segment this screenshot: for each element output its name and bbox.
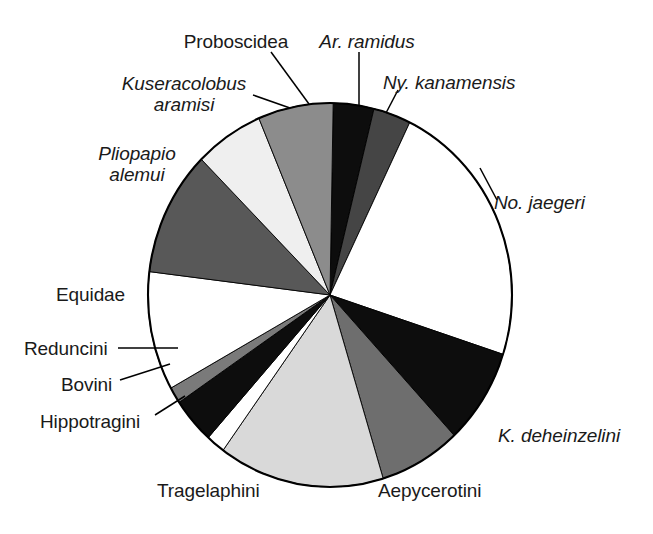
pie-label-no-jaegeri-line1: No. jaegeri — [494, 192, 585, 213]
pie-label-proboscidea: Proboscidea — [169, 31, 303, 52]
pie-label-kuseracolobus: Kuseracolobusaramisi — [104, 73, 264, 116]
pie-label-tragelaphini: Tragelaphini — [157, 480, 270, 501]
pie-label-pliopapio-line2: alemui — [109, 164, 164, 185]
pie-label-ny-kanamensis: Ny. kanamensis — [383, 72, 535, 93]
pie-label-ar-ramidus-line1: Ar. ramidus — [319, 31, 414, 52]
pie-label-no-jaegeri: No. jaegeri — [494, 192, 614, 213]
pie-label-tragelaphini-line1: Tragelaphini — [157, 480, 260, 501]
pie-chart-svg — [0, 0, 653, 534]
pie-label-hippotragini-line1: Hippotragini — [40, 411, 140, 432]
pie-label-k-deheinzelini: K. deheinzelini — [498, 425, 644, 446]
pie-label-proboscidea-line1: Proboscidea — [184, 31, 289, 52]
pie-label-pliopapio: Pliopapioalemui — [72, 143, 202, 186]
pie-chart-figure: ProboscideaAr. ramidusNy. kanamensisKuse… — [0, 0, 653, 534]
pie-label-reduncini-line1: Reduncini — [24, 338, 108, 359]
pie-label-ar-ramidus: Ar. ramidus — [310, 31, 424, 52]
pie-label-kuseracolobus-line1: Kuseracolobus — [122, 73, 246, 94]
pie-label-bovini: Bovini — [61, 374, 119, 395]
pie-label-pliopapio-line1: Pliopapio — [98, 143, 175, 164]
pie-label-k-deheinzelini-line1: K. deheinzelini — [498, 425, 620, 446]
proboscidea-leader — [271, 52, 309, 104]
pie-label-aepycerotini-line1: Aepycerotini — [378, 480, 481, 501]
pie-label-reduncini: Reduncini — [24, 338, 117, 359]
pie-label-aepycerotini: Aepycerotini — [378, 480, 496, 501]
pie-label-equidae: Equidae — [56, 284, 138, 305]
pie-label-hippotragini: Hippotragini — [40, 411, 153, 432]
pie-slices-group — [148, 103, 512, 487]
pie-label-bovini-line1: Bovini — [61, 374, 112, 395]
pie-label-kuseracolobus-line2: aramisi — [154, 94, 215, 115]
pie-label-ny-kanamensis-line1: Ny. kanamensis — [383, 72, 515, 93]
pie-label-equidae-line1: Equidae — [56, 284, 125, 305]
